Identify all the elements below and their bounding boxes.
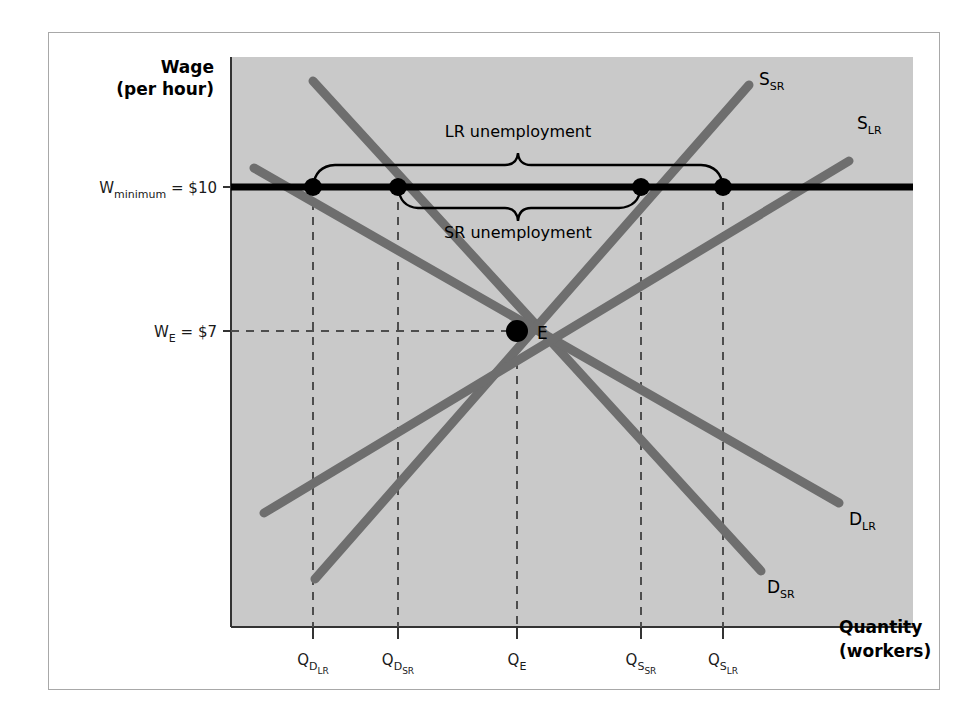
x-tick-label-qdsr: QDSR (382, 651, 414, 676)
x-axis-title-line1: Quantity (839, 617, 922, 637)
annotation-equilibrium-point: E (537, 323, 548, 343)
marker-qssr (632, 178, 650, 196)
annotation-lr-unemployment: LR unemployment (445, 122, 592, 141)
y-axis-title-line1: Wage (161, 57, 214, 77)
y-tick-label-equilibrium-wage: WE = $7 (154, 323, 217, 345)
x-tick-label-qslr: QSLR (708, 651, 738, 676)
minimum-wage-labor-market-chart: Wage (per hour) Quantity (workers) Wmini… (49, 33, 939, 689)
y-axis-title-line2: (per hour) (116, 79, 214, 99)
x-axis-title-line2: (workers) (839, 641, 931, 661)
x-tick-label-qe: QE (508, 651, 527, 673)
annotation-sr-unemployment: SR unemployment (444, 223, 592, 242)
x-tick-label-qssr: QSSR (626, 651, 657, 676)
marker-equilibrium (506, 320, 528, 342)
marker-qslr (714, 178, 732, 196)
x-tick-label-qdlr: QDLR (297, 651, 329, 676)
y-tick-label-minimum-wage: Wminimum = $10 (99, 179, 217, 201)
plot-background (231, 57, 913, 627)
figure-panel: Wage (per hour) Quantity (workers) Wmini… (48, 32, 940, 690)
marker-qdlr (304, 178, 322, 196)
marker-qdsr (389, 178, 407, 196)
